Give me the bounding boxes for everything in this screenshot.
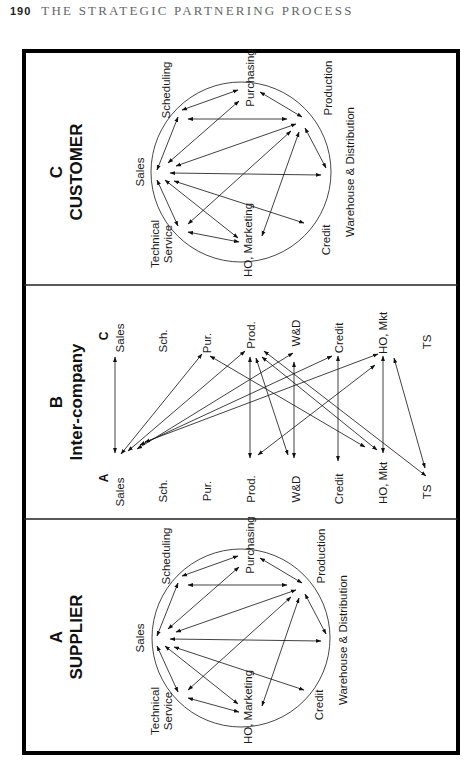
customer-node-purchasing: Purchasing [244, 49, 256, 107]
intercompany-arrows [115, 351, 426, 476]
a-node-pur: Pur. [201, 481, 213, 501]
a-node-prod: Prod. [245, 475, 257, 503]
supplier-node-technical: Technical [149, 687, 161, 735]
c-node-sales: Sales [114, 323, 126, 352]
supplier-node-purchasing: Purchasing [244, 516, 256, 574]
a-node-wd: W&D [290, 476, 302, 503]
customer-node-service: Service [162, 225, 174, 263]
customer-node-warehouse: Warehouse & Distribution [344, 107, 356, 237]
c-node-ts: TS [421, 334, 433, 349]
customer-panel: C CUSTOMER Sales Scheduling Purchasing P… [47, 49, 356, 277]
intercompany-left-letter: A [97, 473, 111, 482]
intercompany-panel: B Inter-company A C Sales Sch. Pur. Prod… [47, 311, 433, 506]
customer-node-scheduling: Scheduling [160, 62, 172, 119]
supplier-circle [152, 549, 330, 727]
intercompany-title: Inter-company [67, 343, 86, 461]
c-node-wd: W&D [290, 320, 302, 347]
c-node-prod: Prod. [245, 321, 257, 349]
customer-node-ho-marketing: HO, Marketing [242, 203, 254, 277]
partnering-diagram: C CUSTOMER Sales Scheduling Purchasing P… [0, 0, 474, 778]
a-node-sch: Sch. [157, 479, 169, 502]
a-node-credit: Credit [333, 473, 345, 504]
a-node-ts: TS [421, 484, 433, 499]
supplier-node-credit: Credit [313, 689, 325, 720]
a-node-ho-mkt: HO, Mkt [377, 461, 389, 504]
customer-circle [151, 82, 331, 262]
supplier-panel: A SUPPLIER Sales Scheduling Purchasing P… [47, 516, 349, 744]
customer-title: CUSTOMER [67, 124, 86, 221]
outer-frame [24, 51, 458, 753]
supplier-node-ho-marketing: HO, Marketing [242, 670, 254, 744]
customer-node-production: Production [322, 61, 334, 116]
supplier-node-warehouse: Warehouse & Distribution [337, 575, 349, 705]
supplier-node-production: Production [315, 529, 327, 584]
customer-letter: C [47, 166, 66, 178]
c-node-pur: Pur. [201, 333, 213, 353]
supplier-node-scheduling: Scheduling [160, 528, 172, 585]
supplier-node-sales: Sales [134, 623, 146, 652]
supplier-letter: A [47, 631, 66, 643]
customer-node-credit: Credit [320, 224, 332, 255]
intercompany-right-letter: C [97, 331, 111, 340]
supplier-node-service: Service [162, 692, 174, 730]
customer-node-sales: Sales [134, 157, 146, 186]
c-node-sch: Sch. [157, 329, 169, 352]
customer-node-technical: Technical [149, 220, 161, 268]
a-node-sales: Sales [114, 477, 126, 506]
intercompany-letter: B [47, 396, 66, 408]
supplier-title: SUPPLIER [67, 594, 86, 679]
c-node-credit: Credit [333, 322, 345, 353]
c-node-ho-mkt: HO, Mkt [377, 311, 389, 354]
